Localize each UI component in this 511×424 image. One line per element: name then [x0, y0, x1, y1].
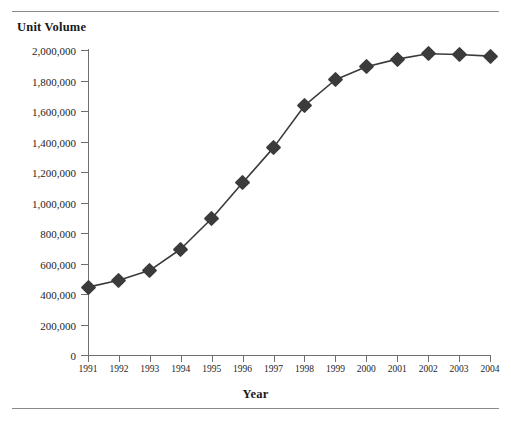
x-axis-tick-label: 2002	[419, 364, 438, 374]
y-axis-tick-label: 0	[71, 350, 77, 362]
x-axis-tick-label: 2004	[481, 364, 500, 374]
x-axis-tick	[490, 355, 491, 362]
x-axis-tick	[335, 355, 336, 362]
series-line	[88, 50, 490, 355]
y-axis-tick-label: 200,000	[40, 320, 76, 332]
x-axis-tick-label: 1991	[79, 364, 98, 374]
y-axis-tick-label: 1,600,000	[32, 106, 76, 118]
y-axis-tick-label: 800,000	[40, 228, 76, 240]
x-axis-tick	[397, 355, 398, 362]
bottom-rule	[12, 408, 499, 409]
x-axis-tick	[366, 355, 367, 362]
x-axis-tick	[274, 355, 275, 362]
y-axis-tick-label: 1,000,000	[32, 198, 76, 210]
x-axis-tick-label: 1996	[233, 364, 252, 374]
x-axis-title: Year	[0, 387, 511, 402]
y-axis-tick-label: 400,000	[40, 289, 76, 301]
x-axis-tick-label: 1999	[326, 364, 345, 374]
x-axis-tick-label: 1995	[202, 364, 221, 374]
y-axis-tick: 600,000	[81, 264, 88, 265]
x-axis-tick-label: 1997	[264, 364, 283, 374]
y-axis-tick-label: 1,200,000	[32, 167, 76, 179]
x-axis-tick	[243, 355, 244, 362]
y-axis-tick: 1,000,000	[81, 203, 88, 204]
x-axis-line	[88, 355, 490, 356]
x-axis-tick	[88, 355, 89, 362]
x-axis-tick	[119, 355, 120, 362]
y-axis-title: Unit Volume	[17, 20, 86, 35]
chart-page: Unit Volume 0200,000400,000600,000800,00…	[0, 0, 511, 424]
y-axis-tick: 800,000	[81, 233, 88, 234]
running-head	[0, 0, 511, 9]
y-axis-tick-label: 2,000,000	[32, 45, 76, 57]
x-axis-tick	[304, 355, 305, 362]
y-axis-tick: 1,600,000	[81, 111, 88, 112]
x-axis-tick-label: 1998	[295, 364, 314, 374]
y-axis-tick: 1,200,000	[81, 172, 88, 173]
y-axis-tick-label: 1,800,000	[32, 76, 76, 88]
x-axis-tick-label: 1992	[109, 364, 128, 374]
x-axis-tick-label: 2001	[388, 364, 407, 374]
y-axis-tick-label: 1,400,000	[32, 137, 76, 149]
x-axis-tick-label: 1993	[140, 364, 159, 374]
x-axis-tick	[428, 355, 429, 362]
y-axis-tick: 1,400,000	[81, 142, 88, 143]
y-axis-tick: 1,800,000	[81, 81, 88, 82]
top-rule	[12, 11, 499, 12]
x-axis-tick-label: 2000	[357, 364, 376, 374]
y-axis-tick-label: 600,000	[40, 259, 76, 271]
y-axis-tick: 200,000	[81, 325, 88, 326]
x-axis-tick-label: 2003	[450, 364, 469, 374]
y-axis-tick: 0	[81, 355, 88, 356]
x-axis-tick	[459, 355, 460, 362]
x-axis-tick	[212, 355, 213, 362]
x-axis-tick	[181, 355, 182, 362]
y-axis-tick: 2,000,000	[81, 50, 88, 51]
plot-area: 0200,000400,000600,000800,0001,000,0001,…	[88, 50, 490, 355]
x-axis-tick-label: 1994	[171, 364, 190, 374]
x-axis-tick	[150, 355, 151, 362]
